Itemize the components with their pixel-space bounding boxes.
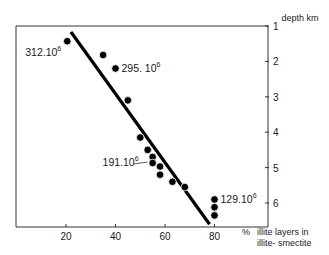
depth-vs-illite-chart: 20406080 123456 depth km % illite layers… xyxy=(0,0,329,255)
data-point xyxy=(156,171,164,179)
value-annotation: 191.106 xyxy=(103,155,139,168)
annotation-base: 129.10 xyxy=(221,193,253,205)
x-tick-label: 80 xyxy=(209,231,221,242)
annotation-exponent: 6 xyxy=(57,45,61,52)
value-annotation: 129.106 xyxy=(221,192,257,205)
y-tick-label: 4 xyxy=(273,127,279,138)
annotation-base: 295. 10 xyxy=(122,62,157,74)
annotation-exponent: 6 xyxy=(253,192,257,199)
y-tick-label: 2 xyxy=(273,56,279,67)
axis-labels: depth km % illite layers in illite- smec… xyxy=(242,13,319,248)
data-point xyxy=(99,51,107,59)
y-tick-label: 1 xyxy=(273,21,279,32)
y-tick-label: 3 xyxy=(273,92,279,103)
annotation-base: 312.10 xyxy=(25,46,57,58)
annotation-exponent: 6 xyxy=(135,155,139,162)
data-point xyxy=(144,146,152,154)
value-annotation: 295. 106 xyxy=(122,61,161,74)
data-point xyxy=(136,134,144,142)
data-point xyxy=(211,203,219,211)
annotation-base: 191.10 xyxy=(103,156,135,168)
y-tick-label: 5 xyxy=(273,163,279,174)
data-point xyxy=(149,159,157,167)
trend-line xyxy=(71,32,210,224)
data-point xyxy=(156,163,164,171)
x-axis-unit: % xyxy=(242,227,250,237)
data-point xyxy=(124,97,132,105)
data-point xyxy=(63,37,71,45)
data-point xyxy=(211,196,219,204)
x-axis-label-line-2: illite- smectite xyxy=(257,238,312,248)
data-point xyxy=(169,178,177,186)
annotations: 312.106295. 106191.106129.106 xyxy=(25,45,256,205)
annotation-exponent: 6 xyxy=(157,61,161,68)
data-point xyxy=(211,212,219,220)
y-tick-label: 6 xyxy=(273,198,279,209)
y-axis-ticks: 123456 xyxy=(265,21,279,209)
y-axis-label: depth km xyxy=(281,13,318,23)
x-axis-label-line-1: illite layers in xyxy=(257,227,309,237)
trend-line-group xyxy=(71,32,210,224)
x-tick-label: 20 xyxy=(60,231,72,242)
data-point xyxy=(112,65,120,73)
annotation-leader xyxy=(134,162,148,164)
x-tick-label: 60 xyxy=(159,231,171,242)
value-annotation: 312.106 xyxy=(25,45,61,58)
data-point xyxy=(181,183,189,191)
x-tick-label: 40 xyxy=(110,231,122,242)
